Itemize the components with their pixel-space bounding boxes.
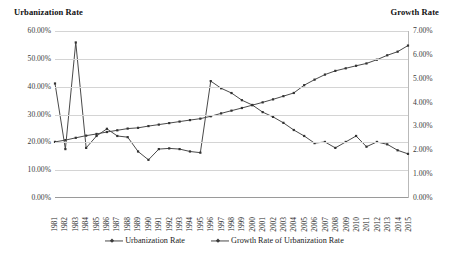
legend-item[interactable]: Urbanization Rate	[105, 236, 185, 245]
data-point-marker	[241, 99, 243, 101]
data-point-marker	[324, 73, 326, 75]
data-point-marker	[407, 44, 409, 46]
x-tick-label: 1983	[72, 217, 79, 232]
x-tick-label: 1990	[145, 217, 152, 232]
x-tick-label: 2009	[343, 217, 350, 232]
gridline	[55, 142, 408, 143]
gridline	[55, 31, 408, 32]
data-point-marker	[178, 148, 180, 150]
data-point-marker	[168, 122, 170, 124]
data-point-marker	[95, 135, 97, 137]
x-tick-label: 2005	[301, 217, 308, 232]
axis-baseline	[55, 197, 408, 198]
data-point-marker	[127, 127, 129, 129]
data-point-marker	[397, 51, 399, 53]
x-tick-label: 1991	[155, 217, 162, 232]
x-tick-label: 2015	[405, 217, 412, 232]
data-point-marker	[137, 127, 139, 129]
data-point-marker	[95, 133, 97, 135]
data-point-marker	[158, 148, 160, 150]
left-tick-label: 10.00%	[4, 166, 51, 174]
data-point-marker	[85, 147, 87, 149]
data-point-marker	[106, 128, 108, 130]
gridline	[55, 115, 408, 116]
data-point-marker	[199, 118, 201, 120]
data-point-marker	[210, 80, 212, 82]
x-tick-label: 1988	[124, 217, 131, 232]
plot-area	[55, 31, 409, 198]
data-point-marker	[272, 98, 274, 100]
right-axis-tick-labels: 7.00%6.00%5.00%4.00%3.00%2.00%1.00%0.00%	[413, 31, 449, 198]
data-point-marker	[137, 150, 139, 152]
left-tick-label: 20.00%	[4, 138, 51, 146]
data-point-marker	[397, 149, 399, 151]
right-axis-title: Growth Rate	[391, 7, 439, 17]
data-point-marker	[106, 131, 108, 133]
data-point-marker	[54, 82, 56, 84]
right-tick-label: 3.00%	[413, 122, 433, 130]
left-tick-label: 30.00%	[4, 111, 51, 119]
x-tick-label: 2012	[374, 217, 381, 232]
x-tick-label: 1994	[186, 217, 193, 232]
data-point-marker	[345, 67, 347, 69]
x-tick-label: 1986	[103, 217, 110, 232]
x-tick-label: 2007	[322, 217, 329, 232]
x-tick-label: 2006	[311, 217, 318, 232]
right-tick-label: 7.00%	[413, 27, 433, 35]
data-point-marker	[147, 159, 149, 161]
right-tick-label: 6.00%	[413, 51, 433, 59]
x-tick-label: 1992	[166, 217, 173, 232]
data-point-marker	[64, 148, 66, 150]
data-point-marker	[355, 65, 357, 67]
x-tick-label: 2011	[363, 217, 370, 232]
x-tick-label: 2013	[384, 217, 391, 232]
x-tick-label: 1984	[82, 217, 89, 232]
left-tick-label: 40.00%	[4, 83, 51, 91]
x-tick-label: 1985	[93, 217, 100, 232]
data-point-marker	[262, 111, 264, 113]
data-point-marker	[199, 152, 201, 154]
left-axis-title: Urbanization Rate	[14, 7, 83, 17]
legend-line-marker-icon	[211, 237, 229, 245]
data-point-marker	[334, 70, 336, 72]
legend-item[interactable]: Growth Rate of Urbanization Rate	[211, 236, 344, 245]
data-point-marker	[407, 153, 409, 155]
legend-item-label: Growth Rate of Urbanization Rate	[231, 236, 344, 245]
data-point-marker	[230, 110, 232, 112]
x-tick-label: 1982	[61, 217, 68, 232]
x-tick-label: 1989	[134, 217, 141, 232]
x-tick-label: 1997	[218, 217, 225, 232]
x-tick-label: 2004	[290, 217, 297, 232]
data-point-marker	[272, 116, 274, 118]
left-tick-label: 60.00%	[4, 27, 51, 35]
data-point-marker	[365, 62, 367, 64]
data-point-marker	[116, 135, 118, 137]
x-tick-label: 1998	[228, 217, 235, 232]
data-point-marker	[147, 125, 149, 127]
legend-item-label: Urbanization Rate	[125, 236, 185, 245]
data-point-marker	[178, 120, 180, 122]
legend-line-marker-icon	[105, 237, 123, 245]
data-point-marker	[365, 146, 367, 148]
data-point-marker	[158, 124, 160, 126]
right-tick-label: 4.00%	[413, 99, 433, 107]
data-point-marker	[189, 119, 191, 121]
x-tick-label: 2008	[332, 217, 339, 232]
gridline	[55, 59, 408, 60]
data-point-marker	[282, 95, 284, 97]
right-tick-label: 0.00%	[413, 194, 433, 202]
x-tick-label: 2002	[270, 217, 277, 232]
data-point-marker	[303, 135, 305, 137]
data-point-marker	[262, 101, 264, 103]
x-tick-label: 1993	[176, 217, 183, 232]
data-point-marker	[386, 143, 388, 145]
chart-legend: Urbanization RateGrowth Rate of Urbaniza…	[0, 236, 449, 245]
left-tick-label: 50.00%	[4, 55, 51, 63]
data-point-marker	[251, 104, 253, 106]
data-point-marker	[189, 150, 191, 152]
x-tick-label: 1981	[51, 217, 58, 232]
data-point-marker	[293, 129, 295, 131]
urbanization-rate-chart: Urbanization Rate Growth Rate 60.00%50.0…	[0, 0, 449, 259]
data-point-marker	[127, 136, 129, 138]
right-tick-label: 1.00%	[413, 170, 433, 178]
